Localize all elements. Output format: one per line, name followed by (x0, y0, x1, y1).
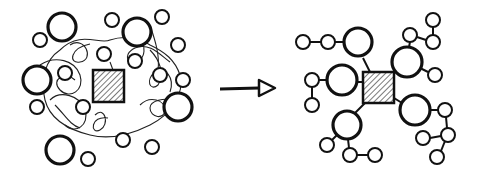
central-hub-square (93, 70, 124, 102)
small-node (320, 138, 334, 152)
transformation-arrow (220, 80, 275, 96)
organized-hub-square (363, 72, 394, 103)
small-node (426, 35, 440, 49)
small-node (343, 148, 357, 162)
large-node (327, 65, 357, 95)
small-node (403, 28, 417, 42)
large-node (344, 28, 372, 56)
large-node (46, 136, 74, 164)
small-node (416, 131, 430, 145)
small-node (116, 133, 130, 147)
small-node (105, 13, 119, 27)
connector-line (441, 141, 445, 151)
small-node (33, 33, 47, 47)
diagram-canvas (0, 0, 477, 177)
connector-line (355, 103, 365, 113)
large-node (123, 18, 151, 46)
small-node (441, 128, 455, 142)
large-node (48, 13, 76, 41)
small-node (438, 103, 452, 117)
small-node (428, 68, 442, 82)
large-node (400, 95, 430, 125)
large-node (392, 47, 422, 77)
large-node (333, 111, 361, 139)
small-node (176, 73, 190, 87)
small-node (128, 54, 142, 68)
small-node (321, 35, 335, 49)
small-node (145, 140, 159, 154)
small-node (30, 100, 44, 114)
connector-line (430, 136, 441, 138)
small-node (58, 66, 72, 80)
small-node (426, 13, 440, 27)
small-node (305, 73, 319, 87)
small-node (171, 38, 185, 52)
small-node (155, 10, 169, 24)
small-node (81, 152, 95, 166)
connector-line (363, 58, 370, 72)
small-node (368, 148, 382, 162)
small-node (430, 150, 444, 164)
small-node (296, 35, 310, 49)
small-node (153, 68, 167, 82)
connector-line (446, 117, 447, 128)
connector-line (417, 37, 426, 40)
small-node (97, 47, 111, 61)
small-node (76, 100, 90, 114)
diagram-svg (0, 0, 477, 177)
large-node (23, 66, 51, 94)
large-node (164, 93, 192, 121)
small-node (305, 98, 319, 112)
